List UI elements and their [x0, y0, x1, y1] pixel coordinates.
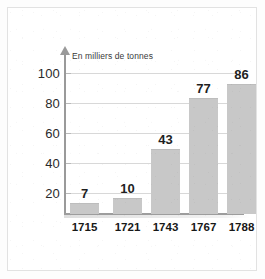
- bar-1767: [189, 98, 218, 215]
- ytick-label-40: 40: [26, 156, 60, 171]
- ytick-mark-40: [66, 163, 71, 164]
- image-frame: 100 80 60 40 20 En milliers de tonnes 7 …: [7, 7, 257, 271]
- category-label-1788: 1788: [223, 221, 260, 233]
- gridline-100: [66, 73, 237, 74]
- ytick-label-60-wrap: 60: [22, 126, 60, 140]
- ytick-mark-80: [66, 103, 71, 104]
- bar-1715: [70, 203, 99, 215]
- ytick-label-100: 100: [26, 66, 60, 81]
- bar-value-1715: 7: [70, 186, 99, 201]
- category-label-1715: 1715: [66, 221, 103, 233]
- y-axis-arrow-icon: [60, 46, 70, 55]
- chart-page: 100 80 60 40 20 En milliers de tonnes 7 …: [0, 0, 265, 279]
- x-axis-shadow: [64, 215, 250, 218]
- ytick-mark-60: [66, 133, 71, 134]
- category-label-1721: 1721: [109, 221, 146, 233]
- category-label-1743: 1743: [147, 221, 184, 233]
- bar-value-1788: 86: [227, 67, 256, 82]
- bar-value-1743: 43: [151, 132, 180, 147]
- ytick-mark-100: [66, 73, 71, 74]
- bar-1788: [227, 84, 256, 214]
- ytick-label-20: 20: [26, 186, 60, 201]
- y-axis-title: En milliers de tonnes: [72, 51, 153, 61]
- bar-1721: [113, 198, 142, 214]
- ytick-label-80-wrap: 80: [22, 96, 60, 110]
- bar-value-1767: 77: [189, 81, 218, 96]
- ytick-label-20-wrap: 20: [22, 186, 60, 200]
- category-label-1767: 1767: [185, 221, 222, 233]
- ytick-label-60: 60: [26, 126, 60, 141]
- ytick-label-40-wrap: 40: [22, 156, 60, 170]
- bar-value-1721: 10: [113, 181, 142, 196]
- ytick-label-80: 80: [26, 96, 60, 111]
- y-axis-line: [64, 52, 66, 214]
- ytick-label-100-wrap: 100: [22, 66, 60, 80]
- bar-1743: [151, 149, 180, 215]
